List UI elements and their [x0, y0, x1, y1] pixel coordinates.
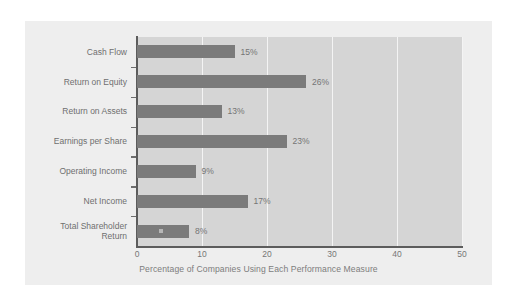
bar-value-label: 23% — [293, 137, 310, 146]
category-label: Total ShareholderReturn — [25, 216, 127, 246]
category-label: Cash Flow — [25, 37, 127, 67]
bar-row: 26% — [137, 67, 462, 97]
bar-row: 9% — [137, 156, 462, 186]
bar-value-label: 13% — [228, 107, 245, 116]
x-axis-tick-label: 0 — [135, 249, 140, 259]
bar — [137, 45, 235, 58]
bar-value-label: 26% — [312, 78, 329, 87]
category-label: Operating Income — [25, 156, 127, 186]
x-axis-tick-labels: 01020304050 — [137, 249, 462, 261]
bar-row: 8% — [137, 216, 462, 246]
category-label-line: Return — [101, 231, 127, 242]
category-label-line: Return on Equity — [64, 77, 127, 88]
category-label-line: Cash Flow — [87, 47, 127, 58]
category-label-line: Net Income — [84, 196, 127, 207]
bar-value-label: 15% — [241, 48, 258, 57]
category-label: Earnings per Share — [25, 127, 127, 157]
bar-row: 13% — [137, 97, 462, 127]
bar-row: 23% — [137, 127, 462, 157]
bar-value-label: 9% — [202, 167, 214, 176]
x-axis-tick-label: 50 — [457, 249, 466, 259]
category-label-line: Operating Income — [59, 166, 127, 177]
category-label: Net Income — [25, 186, 127, 216]
chart-card: 15%26%13%23%9%17%8% Cash FlowReturn on E… — [25, 21, 492, 285]
bar-series: 15%26%13%23%9%17%8% — [137, 37, 462, 246]
bar — [137, 75, 306, 88]
x-axis-tick-label: 40 — [392, 249, 401, 259]
category-label: Return on Equity — [25, 67, 127, 97]
bar — [137, 105, 222, 118]
category-label-line: Total Shareholder — [60, 221, 127, 232]
bar — [137, 195, 248, 208]
category-label-line: Earnings per Share — [54, 136, 127, 147]
bar-row: 17% — [137, 186, 462, 216]
bar-row: 15% — [137, 37, 462, 67]
x-axis-tick-label: 20 — [262, 249, 271, 259]
bar-artifact-speck — [159, 229, 163, 233]
x-axis-tick-label: 30 — [327, 249, 336, 259]
bar — [137, 225, 189, 238]
category-axis-labels: Cash FlowReturn on EquityReturn on Asset… — [25, 37, 132, 246]
category-label-line: Return on Assets — [62, 106, 127, 117]
x-axis-tick-label: 10 — [197, 249, 206, 259]
gridline — [462, 37, 463, 246]
bar-value-label: 17% — [254, 197, 271, 206]
bar — [137, 165, 196, 178]
bar — [137, 135, 287, 148]
x-axis-title: Percentage of Companies Using Each Perfo… — [25, 264, 492, 274]
x-axis-line — [136, 246, 463, 248]
bar-value-label: 8% — [195, 227, 207, 236]
category-label: Return on Assets — [25, 97, 127, 127]
